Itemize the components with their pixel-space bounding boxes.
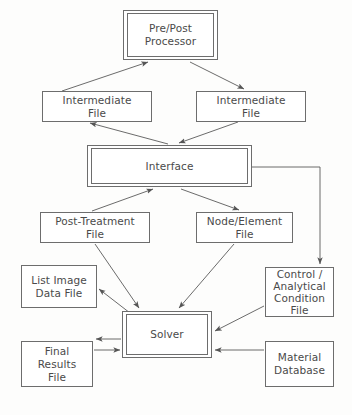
- node-label-intermediate-file-left: Intermediate File: [63, 94, 132, 120]
- node-inner-frame: Interface: [91, 148, 248, 184]
- edge-control-condition-to-solver: [215, 306, 264, 331]
- node-label-material-database: Material Database: [274, 351, 325, 377]
- edge-interface-to-intermediate-left: [90, 123, 168, 144]
- edge-solver-to-list-image-data: [99, 289, 130, 313]
- edge-post-treatment-to-interface: [92, 189, 153, 211]
- node-list-image-data-file[interactable]: List Image Data File: [21, 265, 97, 308]
- edge-intermediate-left-to-processor: [62, 62, 148, 91]
- node-node-element-file[interactable]: Node/Element File: [196, 212, 293, 243]
- node-label-interface: Interface: [146, 160, 194, 173]
- edge-intermediate-right-to-interface: [179, 122, 238, 143]
- node-intermediate-file-left[interactable]: Intermediate File: [42, 91, 152, 122]
- node-label-node-element-file: Node/Element File: [207, 215, 283, 241]
- node-solver[interactable]: Solver: [122, 311, 212, 358]
- node-material-database[interactable]: Material Database: [265, 341, 334, 387]
- node-label-control-analytical-condition-file: Control / Analytical Condition File: [273, 268, 326, 316]
- node-inner-frame: Solver: [126, 314, 208, 355]
- node-post-treatment-file[interactable]: Post-Treatment File: [40, 212, 150, 243]
- node-label-pre-post-processor: Pre/Post Processor: [145, 22, 196, 48]
- node-interface[interactable]: Interface: [87, 145, 252, 187]
- node-pre-post-processor[interactable]: Pre/Post Processor: [123, 10, 218, 60]
- node-label-post-treatment-file: Post-Treatment File: [55, 215, 135, 241]
- edge-post-treatment-to-solver: [95, 244, 139, 308]
- node-label-intermediate-file-right: Intermediate File: [217, 94, 286, 120]
- edge-processor-to-intermediate-right: [190, 62, 244, 89]
- node-control-analytical-condition-file[interactable]: Control / Analytical Condition File: [265, 267, 334, 317]
- node-inner-frame: Pre/Post Processor: [127, 13, 214, 57]
- edge-interface-to-node-element: [181, 189, 239, 210]
- node-label-solver: Solver: [150, 328, 184, 341]
- edge-node-element-to-solver: [179, 244, 234, 308]
- node-final-results-file[interactable]: Final Results File: [21, 341, 93, 387]
- node-intermediate-file-right[interactable]: Intermediate File: [196, 91, 306, 122]
- node-label-final-results-file: Final Results File: [38, 345, 77, 384]
- diagram-canvas: Pre/Post Processor Intermediate File Int…: [0, 0, 352, 415]
- node-label-list-image-data-file: List Image Data File: [31, 274, 87, 300]
